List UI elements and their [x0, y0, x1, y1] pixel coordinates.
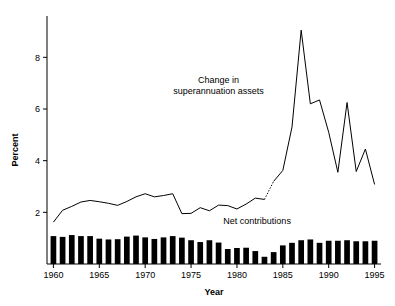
- bar-1960: [51, 236, 57, 264]
- bar-1991: [335, 241, 341, 264]
- x-tick-label-1970: 1970: [135, 270, 155, 280]
- annotation-superannuation-line1: Change in: [198, 75, 239, 85]
- bar-1994: [363, 241, 369, 264]
- bar-1965: [96, 239, 102, 264]
- x-tick-label-1990: 1990: [319, 270, 339, 280]
- y-tick-label-2: 2: [35, 208, 40, 218]
- y-tick-label-6: 6: [35, 104, 40, 114]
- bar-1968: [124, 237, 130, 264]
- bar-1982: [252, 251, 258, 264]
- x-tick-label-1975: 1975: [181, 270, 201, 280]
- chart-plot: 2468 19601965197019751980198519901995 Pe…: [0, 0, 395, 306]
- superannuation-line-late: [274, 30, 375, 184]
- bar-1990: [326, 241, 332, 264]
- bar-1985: [280, 245, 286, 264]
- bar-1975: [188, 240, 194, 264]
- chart-container: 2468 19601965197019751980198519901995 Pe…: [0, 0, 395, 306]
- bar-1964: [87, 236, 93, 264]
- bar-1962: [69, 235, 75, 264]
- bar-1981: [243, 248, 249, 264]
- x-tick-label-1995: 1995: [365, 270, 385, 280]
- x-tick-label-1960: 1960: [43, 270, 63, 280]
- bar-1976: [197, 242, 203, 264]
- bar-1972: [161, 237, 167, 264]
- bar-1969: [133, 236, 139, 264]
- x-tick-label-1965: 1965: [89, 270, 109, 280]
- y-axis-title: Percent: [10, 133, 20, 166]
- bar-1983: [262, 257, 268, 264]
- bar-1970: [142, 237, 148, 264]
- bar-1974: [179, 238, 185, 264]
- bar-1971: [152, 239, 158, 264]
- bar-1987: [298, 240, 304, 264]
- bar-1995: [372, 241, 378, 264]
- bar-1963: [78, 236, 84, 264]
- bar-1992: [344, 240, 350, 264]
- bar-1980: [234, 248, 240, 264]
- bar-1978: [216, 243, 222, 264]
- bar-1984: [271, 252, 277, 264]
- y-tick-label-4: 4: [35, 156, 40, 166]
- annotation-net-contributions: Net contributions: [223, 216, 291, 226]
- net-contributions-bars: [51, 235, 378, 264]
- annotation-superannuation-line2: superannuation assets: [173, 86, 264, 96]
- bar-1988: [308, 239, 314, 264]
- bar-1989: [317, 243, 323, 264]
- bar-1961: [60, 237, 66, 264]
- x-axis-title: Year: [204, 287, 224, 297]
- bar-1973: [170, 236, 176, 264]
- bar-1986: [289, 243, 295, 264]
- y-axis-ticks: 2468: [35, 53, 47, 218]
- superannuation-line-dotted-segment: [264, 181, 273, 199]
- bar-1977: [207, 240, 213, 264]
- bar-1966: [106, 239, 112, 264]
- bar-1967: [115, 239, 121, 264]
- bar-1979: [225, 249, 231, 264]
- bar-1993: [353, 241, 359, 264]
- y-tick-label-8: 8: [35, 53, 40, 63]
- x-tick-label-1980: 1980: [227, 270, 247, 280]
- x-axis-ticks: 19601965197019751980198519901995: [43, 264, 384, 280]
- x-tick-label-1985: 1985: [273, 270, 293, 280]
